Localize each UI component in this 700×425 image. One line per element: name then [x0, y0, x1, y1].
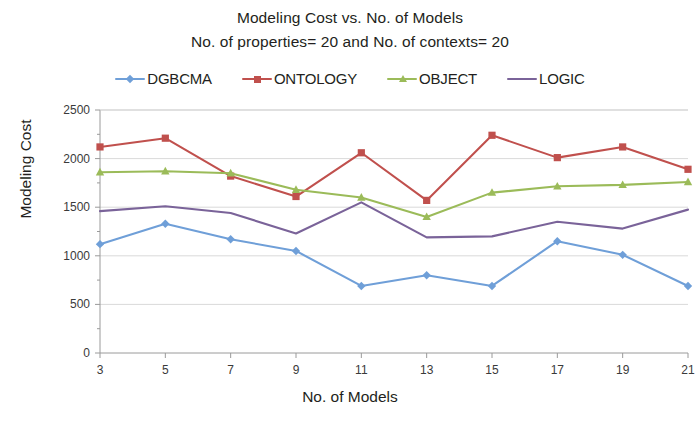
- data-point-ontology: [96, 143, 103, 150]
- data-point-ontology: [423, 197, 430, 204]
- x-tick-label: 7: [227, 363, 234, 377]
- data-point-dgbcma: [226, 235, 234, 243]
- x-tick-label: 11: [355, 363, 368, 377]
- y-tick-label: 0: [83, 346, 90, 360]
- data-point-dgbcma: [292, 247, 300, 255]
- data-point-ontology: [554, 154, 561, 161]
- x-tick-label: 21: [681, 363, 695, 377]
- data-point-ontology: [358, 149, 365, 156]
- series-ontology: [96, 132, 691, 204]
- x-tick-label: 9: [293, 363, 300, 377]
- plot-area: 050010001500200025003579111315171921: [0, 0, 700, 425]
- y-tick-label: 2500: [63, 103, 90, 117]
- x-tick-label: 13: [420, 363, 434, 377]
- data-point-dgbcma: [357, 282, 365, 290]
- y-tick-label: 500: [70, 297, 90, 311]
- data-point-ontology: [619, 143, 626, 150]
- data-point-ontology: [488, 132, 495, 139]
- x-tick-label: 17: [551, 363, 565, 377]
- data-point-ontology: [162, 135, 169, 142]
- x-tick-label: 19: [616, 363, 630, 377]
- y-tick-label: 1000: [63, 249, 90, 263]
- series-line-ontology: [100, 135, 688, 200]
- data-point-dgbcma: [161, 220, 169, 228]
- series-object: [96, 167, 692, 220]
- x-tick-label: 15: [485, 363, 499, 377]
- data-point-dgbcma: [422, 271, 430, 279]
- chart-figure: Modeling Cost vs. No. of Models No. of p…: [0, 0, 700, 425]
- data-point-ontology: [292, 193, 299, 200]
- series-line-dgbcma: [100, 224, 688, 286]
- series-line-object: [100, 171, 688, 217]
- data-point-dgbcma: [618, 251, 626, 259]
- data-point-dgbcma: [684, 282, 692, 290]
- series-dgbcma: [96, 220, 692, 291]
- y-tick-label: 2000: [63, 152, 90, 166]
- data-point-ontology: [684, 166, 691, 173]
- y-tick-label: 1500: [63, 200, 90, 214]
- x-tick-label: 3: [97, 363, 104, 377]
- data-point-dgbcma: [96, 240, 104, 248]
- x-tick-label: 5: [162, 363, 169, 377]
